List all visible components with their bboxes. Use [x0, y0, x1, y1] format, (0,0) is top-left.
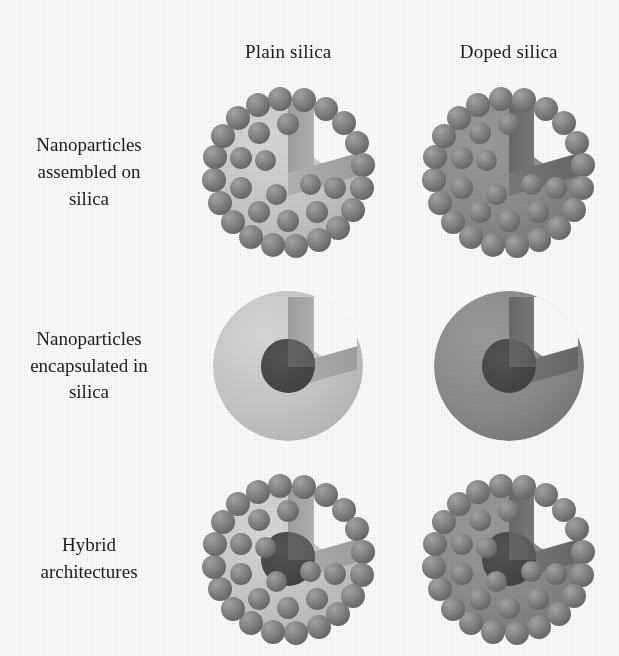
surface-nanoparticle-bead [469, 509, 491, 531]
surface-nanoparticle-bead [476, 537, 497, 558]
row-header-encapsulated: Nanoparticles encapsulated in silica [0, 269, 178, 462]
column-header-doped-silica: Doped silica [399, 0, 619, 76]
surface-nanoparticle-bead [527, 588, 549, 610]
surface-nanoparticle-bead [565, 131, 589, 155]
surface-nanoparticle-bead [481, 233, 505, 257]
encapsulated-core-nanoparticle [261, 339, 315, 393]
surface-nanoparticle-bead [351, 153, 375, 177]
surface-nanoparticle-bead [208, 577, 232, 601]
particle-hybrid-doped [421, 471, 597, 647]
surface-nanoparticle-bead [521, 561, 542, 582]
surface-nanoparticle-bead [292, 475, 316, 499]
row-header-assembled: Nanoparticles assembled on silica [0, 76, 178, 269]
particle-assembled-plain [200, 85, 376, 261]
surface-nanoparticle-bead [248, 588, 270, 610]
surface-nanoparticle-bead [571, 153, 595, 177]
surface-nanoparticle-bead [469, 201, 491, 223]
cell-hybrid-doped [399, 463, 619, 656]
surface-nanoparticle-bead [203, 145, 227, 169]
surface-nanoparticle-bead [277, 500, 299, 522]
corner-spacer [0, 0, 178, 76]
surface-nanoparticle-bead [351, 540, 375, 564]
surface-nanoparticle-bead [489, 474, 513, 498]
row-header-hybrid: Hybrid architectures [0, 463, 178, 656]
surface-nanoparticle-bead [284, 234, 308, 258]
surface-nanoparticle-bead [505, 234, 529, 258]
surface-nanoparticle-bead [261, 233, 285, 257]
surface-nanoparticle-bead [498, 500, 520, 522]
surface-nanoparticle-bead [469, 588, 491, 610]
surface-nanoparticle-bead [481, 620, 505, 644]
surface-nanoparticle-bead [469, 122, 491, 144]
surface-nanoparticle-bead [570, 563, 594, 587]
particle-encapsulated-doped [421, 278, 597, 454]
surface-nanoparticle-bead [441, 597, 465, 621]
surface-nanoparticle-bead [300, 561, 321, 582]
cell-encapsulated-plain [178, 269, 399, 462]
row-header-assembled-line3: silica [36, 186, 142, 213]
surface-nanoparticle-bead [246, 93, 270, 117]
surface-nanoparticle-bead [489, 87, 513, 111]
particle-assembled-doped [421, 85, 597, 261]
surface-nanoparticle-bead [324, 177, 346, 199]
surface-nanoparticle-bead [547, 602, 571, 626]
cell-assembled-plain [178, 76, 399, 269]
surface-nanoparticle-bead [261, 620, 285, 644]
surface-nanoparticle-bead [527, 228, 551, 252]
surface-nanoparticle-bead [230, 177, 252, 199]
surface-nanoparticle-bead [248, 509, 270, 531]
surface-nanoparticle-bead [306, 588, 328, 610]
row-header-assembled-line1: Nanoparticles [36, 132, 142, 159]
surface-nanoparticle-bead [505, 621, 529, 645]
surface-nanoparticle-bead [545, 177, 567, 199]
column-header-plain-silica-label: Plain silica [245, 40, 331, 64]
surface-nanoparticle-bead [345, 131, 369, 155]
column-header-plain-silica: Plain silica [178, 0, 399, 76]
particle-encapsulated-plain [200, 278, 376, 454]
column-header-doped-silica-label: Doped silica [460, 40, 558, 64]
surface-nanoparticle-bead [350, 563, 374, 587]
surface-nanoparticle-bead [266, 571, 287, 592]
surface-nanoparticle-bead [527, 615, 551, 639]
surface-nanoparticle-bead [202, 168, 226, 192]
row-header-hybrid-line1: Hybrid [40, 532, 137, 559]
surface-nanoparticle-bead [203, 532, 227, 556]
surface-nanoparticle-bead [345, 517, 369, 541]
row-header-hybrid-line2: architectures [40, 559, 137, 586]
surface-nanoparticle-bead [284, 621, 308, 645]
surface-nanoparticle-bead [221, 597, 245, 621]
surface-nanoparticle-bead [498, 597, 520, 619]
row-header-assembled-line2: assembled on [36, 159, 142, 186]
surface-nanoparticle-bead [266, 184, 287, 205]
particle-hybrid-plain [200, 471, 376, 647]
surface-nanoparticle-bead [428, 191, 452, 215]
surface-nanoparticle-bead [202, 555, 226, 579]
row-header-encapsulated-line1: Nanoparticles [30, 326, 148, 353]
surface-nanoparticle-bead [571, 540, 595, 564]
surface-nanoparticle-bead [498, 113, 520, 135]
surface-nanoparticle-bead [246, 480, 270, 504]
surface-nanoparticle-bead [277, 113, 299, 135]
surface-nanoparticle-bead [565, 517, 589, 541]
surface-nanoparticle-bead [208, 191, 232, 215]
surface-nanoparticle-bead [230, 147, 252, 169]
surface-nanoparticle-bead [451, 147, 473, 169]
surface-nanoparticle-bead [422, 555, 446, 579]
surface-nanoparticle-bead [350, 176, 374, 200]
surface-nanoparticle-bead [570, 176, 594, 200]
row-header-encapsulated-line3: silica [30, 379, 148, 406]
surface-nanoparticle-bead [451, 563, 473, 585]
row-header-encapsulated-line2: encapsulated in [30, 353, 148, 380]
figure-grid: Plain silica Doped silica Nanoparticles … [0, 0, 619, 656]
surface-nanoparticle-bead [466, 480, 490, 504]
cell-assembled-doped [399, 76, 619, 269]
cell-hybrid-plain [178, 463, 399, 656]
cell-encapsulated-doped [399, 269, 619, 462]
surface-nanoparticle-bead [527, 201, 549, 223]
surface-nanoparticle-bead [498, 210, 520, 232]
surface-nanoparticle-bead [307, 228, 331, 252]
surface-nanoparticle-bead [476, 150, 497, 171]
encapsulated-core-nanoparticle [482, 339, 536, 393]
surface-nanoparticle-bead [451, 177, 473, 199]
surface-nanoparticle-bead [451, 533, 473, 555]
